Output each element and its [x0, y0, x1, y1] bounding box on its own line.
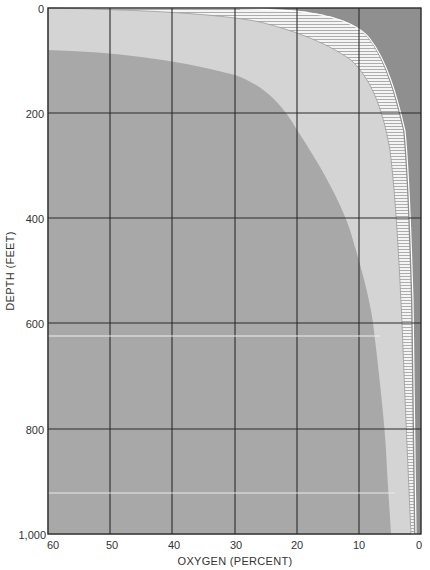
y-tick-800: 800 [26, 424, 44, 436]
y-tick-400: 400 [26, 213, 44, 225]
x-tick-50: 50 [106, 539, 118, 551]
x-tick-60: 60 [47, 539, 59, 551]
y-axis-title: DEPTH (FEET) [4, 231, 16, 310]
x-tick-0: 0 [416, 539, 422, 551]
x-tick-40: 40 [168, 539, 180, 551]
y-tick-0: 0 [38, 3, 44, 15]
y-tick-600: 600 [26, 318, 44, 330]
depth-oxygen-chart: 0 200 400 600 800 1,000 60 50 40 30 20 1… [0, 0, 430, 570]
x-tick-20: 20 [291, 539, 303, 551]
x-tick-10: 10 [353, 539, 365, 551]
x-axis-ticks: 60 50 40 30 20 10 0 [47, 539, 422, 551]
y-axis-ticks: 0 200 400 600 800 1,000 [18, 3, 46, 541]
x-tick-30: 30 [230, 539, 242, 551]
y-tick-200: 200 [26, 108, 44, 120]
y-tick-1000: 1,000 [18, 529, 46, 541]
x-axis-title: OXYGEN (PERCENT) [178, 555, 293, 567]
